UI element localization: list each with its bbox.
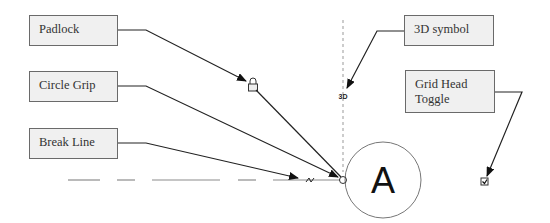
grid-head-label: A <box>371 160 395 201</box>
callout-circle-grip: Circle Grip <box>29 71 118 102</box>
callout-3d-symbol: 3D symbol <box>404 15 494 46</box>
padlock-icon[interactable] <box>249 78 258 91</box>
callout-3d-symbol-label: 3D symbol <box>414 22 469 36</box>
callout-circle-grip-label: Circle Grip <box>39 78 96 92</box>
leader-padlock-grip <box>256 90 341 177</box>
break-line-icon[interactable] <box>306 178 314 182</box>
leader-padlock <box>117 30 246 81</box>
callout-break-line-label: Break Line <box>39 135 95 149</box>
callout-break-line: Break Line <box>29 128 118 159</box>
symbol-3d[interactable]: 3D <box>339 93 348 100</box>
callout-padlock-label: Padlock <box>39 22 79 36</box>
leader-3d-symbol <box>347 31 404 88</box>
leader-break-line <box>117 143 298 178</box>
callout-grid-head-toggle: Grid Head Toggle <box>405 70 495 113</box>
callout-padlock: Padlock <box>29 15 118 46</box>
leader-circle-grip <box>117 86 338 177</box>
callout-grid-head-toggle-label: Grid Head Toggle <box>415 77 467 106</box>
checkbox-icon[interactable] <box>481 178 488 185</box>
